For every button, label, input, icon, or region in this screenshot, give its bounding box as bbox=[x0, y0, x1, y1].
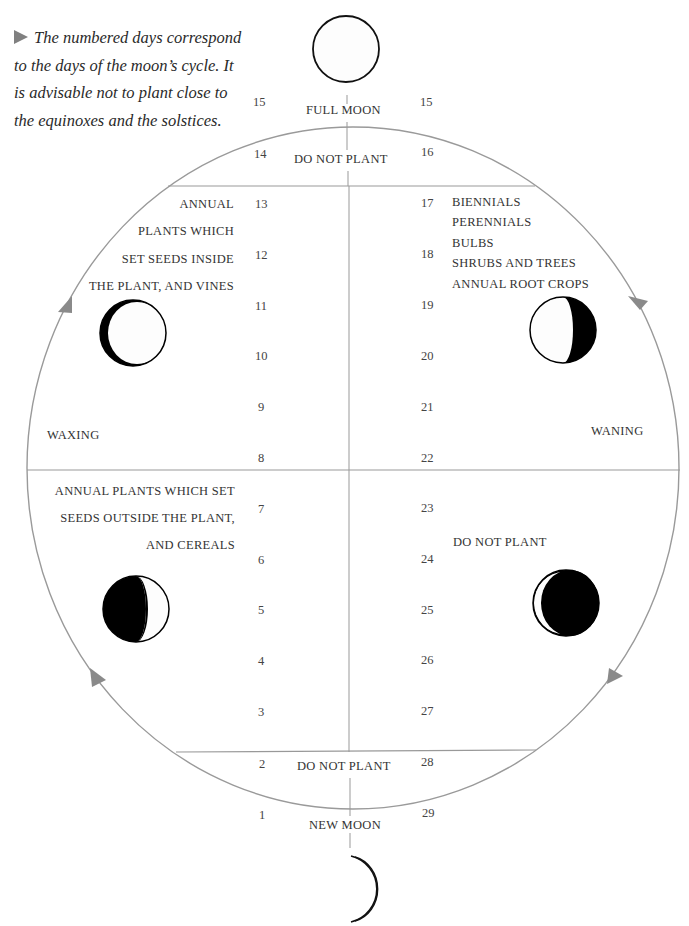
arrow-down-right-icon bbox=[628, 296, 648, 310]
day-15-left: 15 bbox=[253, 95, 266, 110]
ur-line-1: BIENNIALS bbox=[452, 195, 521, 210]
ll-line-3: AND CEREALS bbox=[146, 538, 235, 553]
full-moon-label: FULL MOON bbox=[306, 103, 381, 118]
ur-line-2: PERENNIALS bbox=[452, 215, 531, 230]
new-moon-crescent-icon bbox=[351, 856, 378, 922]
day-22: 22 bbox=[421, 451, 434, 466]
ul-line-1: ANNUAL bbox=[179, 197, 234, 212]
day-16: 16 bbox=[421, 145, 434, 160]
caption-text: The numbered days correspond to the days… bbox=[14, 24, 244, 134]
day-11: 11 bbox=[255, 299, 267, 314]
new-moon-label: NEW MOON bbox=[309, 818, 381, 833]
do-not-plant-lr-label: DO NOT PLANT bbox=[453, 535, 547, 550]
day-9: 9 bbox=[258, 400, 264, 415]
arrow-up-lower-left-icon bbox=[90, 668, 106, 687]
day-4: 4 bbox=[258, 654, 264, 669]
waning-gibbous-moon-icon bbox=[530, 297, 596, 363]
day-29: 29 bbox=[422, 806, 435, 821]
ur-line-4: SHRUBS AND TREES bbox=[452, 256, 576, 271]
day-6: 6 bbox=[258, 553, 264, 568]
ll-line-1: ANNUAL PLANTS WHICH SET bbox=[55, 484, 235, 499]
day-27: 27 bbox=[421, 704, 434, 719]
ul-line-3: SET SEEDS INSIDE bbox=[122, 252, 234, 267]
day-25: 25 bbox=[421, 603, 434, 618]
waning-crescent-moon-icon bbox=[533, 570, 599, 636]
ur-line-5: ANNUAL ROOT CROPS bbox=[452, 277, 589, 292]
ul-line-4: THE PLANT, AND VINES bbox=[89, 279, 234, 294]
day-2: 2 bbox=[259, 757, 265, 772]
full-moon-icon bbox=[313, 16, 379, 82]
first-quarter-moon-icon bbox=[103, 576, 169, 642]
day-7: 7 bbox=[258, 502, 264, 517]
day-10: 10 bbox=[255, 349, 268, 364]
triangle-bullet-icon bbox=[14, 30, 28, 44]
cycle-circle bbox=[27, 127, 679, 809]
day-26: 26 bbox=[421, 653, 434, 668]
waxing-label: WAXING bbox=[47, 428, 99, 443]
day-1: 1 bbox=[259, 808, 265, 823]
day-28: 28 bbox=[421, 755, 434, 770]
day-8: 8 bbox=[258, 451, 264, 466]
lower-chord bbox=[176, 750, 536, 752]
waxing-moon-icon bbox=[100, 300, 166, 366]
ll-line-2: SEEDS OUTSIDE THE PLANT, bbox=[60, 511, 235, 526]
day-24: 24 bbox=[421, 552, 434, 567]
arrow-up-left-icon bbox=[58, 296, 72, 313]
day-12: 12 bbox=[255, 248, 268, 263]
ul-line-2: PLANTS WHICH bbox=[138, 224, 234, 239]
day-14: 14 bbox=[254, 147, 267, 162]
day-20: 20 bbox=[421, 349, 434, 364]
do-not-plant-bottom-label: DO NOT PLANT bbox=[297, 759, 391, 774]
day-19: 19 bbox=[421, 298, 434, 313]
moon-cycle-diagram bbox=[0, 0, 689, 926]
day-5: 5 bbox=[258, 603, 264, 618]
waning-label: WANING bbox=[591, 424, 643, 439]
day-3: 3 bbox=[258, 705, 264, 720]
do-not-plant-top-label: DO NOT PLANT bbox=[294, 152, 388, 167]
day-23: 23 bbox=[421, 501, 434, 516]
day-15-right: 15 bbox=[420, 95, 433, 110]
day-18: 18 bbox=[421, 247, 434, 262]
day-13: 13 bbox=[255, 197, 268, 212]
day-21: 21 bbox=[421, 400, 434, 415]
ur-line-3: BULBS bbox=[452, 236, 494, 251]
day-17: 17 bbox=[421, 196, 434, 211]
